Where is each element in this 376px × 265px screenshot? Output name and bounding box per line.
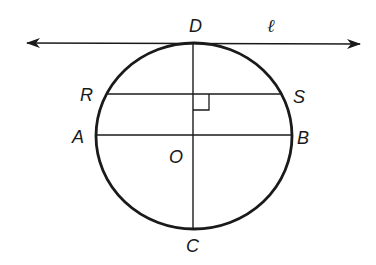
- label-C: C: [186, 236, 200, 256]
- label-O: O: [169, 147, 183, 167]
- label-B: B: [297, 128, 309, 148]
- label-S: S: [293, 87, 305, 107]
- right-angle-marker: [193, 94, 209, 110]
- geometry-diagram: D ℓ R S A B O C: [0, 0, 376, 265]
- label-D: D: [189, 16, 202, 36]
- label-R: R: [80, 85, 93, 105]
- label-ell: ℓ: [267, 15, 275, 36]
- circle-O: [96, 43, 292, 229]
- label-A: A: [71, 127, 84, 147]
